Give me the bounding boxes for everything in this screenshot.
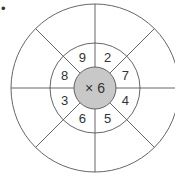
spoke-line — [110, 29, 155, 74]
inner-number: 3 — [61, 93, 68, 108]
bullet-marker: • — [1, 1, 6, 16]
spoke-line — [110, 103, 155, 148]
inner-number: 8 — [61, 68, 68, 83]
inner-number: 2 — [104, 50, 111, 65]
spoke-line — [36, 29, 81, 74]
center-label: × 6 — [85, 80, 105, 96]
inner-number: 5 — [104, 111, 111, 126]
multiplication-wheel: • × 6 92745638 — [0, 0, 175, 176]
spoke-line — [36, 103, 81, 148]
inner-number: 4 — [122, 93, 129, 108]
inner-number: 6 — [79, 111, 86, 126]
inner-number: 7 — [122, 68, 129, 83]
inner-number: 9 — [79, 50, 86, 65]
